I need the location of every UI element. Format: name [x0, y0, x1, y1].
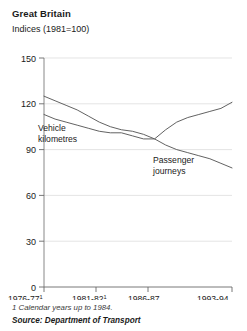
y-tick-label-150: 150: [21, 54, 36, 64]
x-tick-label-1976-77: 1976-771: [8, 294, 43, 300]
annotation-passenger-journeys-line1: Passenger: [153, 155, 194, 165]
y-tick-label-30: 30: [26, 237, 36, 247]
y-tick-label-120: 120: [21, 99, 36, 109]
y-axis-ticks: [39, 58, 44, 287]
x-tick-label-1986-87: 1986-87: [128, 294, 160, 300]
chart-figure: Great Britain Indices (1981=100): [0, 0, 247, 331]
y-tick-label-0: 0: [31, 283, 36, 293]
x-axis-ticks: [44, 287, 232, 292]
y-tick-label-90: 90: [26, 145, 36, 155]
chart-source: Source: Department of Transport: [12, 316, 141, 325]
line-series-passenger-journeys: [44, 96, 232, 168]
annotation-vehicle-kilometres-line1: Vehicle: [38, 123, 66, 133]
annotation-vehicle-kilometres-line2: kilometres: [38, 134, 77, 144]
x-tick-label-1981-82: 1981-821: [72, 294, 107, 300]
series-annotation-passenger-journeys: Passenger journeys: [152, 155, 194, 176]
annotation-passenger-journeys-line2: journeys: [152, 166, 185, 176]
chart-footnote: 1 Calendar years up to 1984.: [12, 303, 113, 312]
plot-area: 150 120 90 60 30 0 1976-771 1981-821 198…: [0, 0, 247, 300]
y-tick-label-60: 60: [26, 191, 36, 201]
series-annotation-vehicle-kilometres: Vehicle kilometres: [38, 123, 77, 144]
x-axis-labels: 1976-771 1981-821 1986-87 1993-94: [8, 294, 229, 300]
x-tick-label-1993-94: 1993-94: [197, 294, 229, 300]
gridlines: [44, 58, 232, 241]
line-chart-svg: 150 120 90 60 30 0 1976-771 1981-821 198…: [0, 0, 247, 300]
